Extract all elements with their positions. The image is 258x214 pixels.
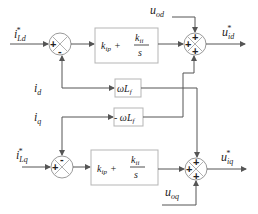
svg-text:uoq: uoq xyxy=(165,185,179,201)
summing-junction-q-error: - + xyxy=(51,153,73,178)
input-i-ref-q: i*Lq xyxy=(16,147,50,167)
svg-text:+: + xyxy=(185,38,191,50)
output-u-iq: u*iq xyxy=(207,149,246,169)
summing-junction-d-error: + - xyxy=(49,33,71,57)
decoupling-block-neg-wl: - ωLf xyxy=(114,108,143,126)
pi-controller-q: kip+ kii s xyxy=(91,150,158,185)
svg-text:i*Lq: i*Lq xyxy=(16,147,28,164)
svg-text:+: + xyxy=(52,161,58,173)
svg-text:s: s xyxy=(138,47,142,58)
svg-text:iq: iq xyxy=(34,110,41,126)
svg-text:+: + xyxy=(192,45,198,57)
svg-text:u*iq: u*iq xyxy=(221,149,233,166)
svg-text:id: id xyxy=(34,81,42,97)
svg-text:+: + xyxy=(50,38,56,50)
pi-controller-d: kip+ kii s xyxy=(95,28,158,63)
input-u-oq: uoq xyxy=(162,181,196,205)
svg-text:-: - xyxy=(60,153,64,165)
svg-text:uod: uod xyxy=(150,3,165,19)
control-block-diagram: i*Ld + - kip+ kii s uod + + + u*id xyxy=(0,0,258,214)
summing-junction-q-output: + + + xyxy=(185,156,207,182)
output-u-id: u*id xyxy=(206,24,245,44)
svg-text:i*Ld: i*Ld xyxy=(14,26,27,43)
svg-text:-: - xyxy=(58,45,62,57)
svg-text:+: + xyxy=(193,170,199,182)
summing-junction-d-output: + + + xyxy=(184,31,206,57)
svg-text:u*id: u*id xyxy=(222,24,235,41)
svg-text:+: + xyxy=(193,156,199,168)
svg-text:+: + xyxy=(186,163,192,175)
input-i-ref-d: i*Ld xyxy=(10,26,48,44)
svg-text:+: + xyxy=(192,31,198,43)
decoupling-block-wl: ωLf xyxy=(115,79,141,97)
feedback-i-q: iq xyxy=(34,110,113,155)
svg-text:s: s xyxy=(134,169,138,180)
